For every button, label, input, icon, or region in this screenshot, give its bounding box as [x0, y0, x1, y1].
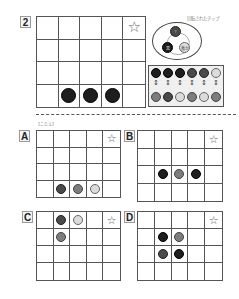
- grid-cell: [102, 17, 124, 40]
- rotation-chip-left: 黒: [162, 42, 173, 53]
- grid-cell: [37, 246, 54, 263]
- grid-cell: [123, 40, 145, 63]
- grid-cell: [188, 246, 205, 263]
- grid-cell: [103, 229, 120, 246]
- grid-cell: [87, 164, 104, 181]
- grid-cell: [70, 212, 87, 229]
- grid-cell: [54, 263, 71, 280]
- grid-cell: [205, 149, 222, 167]
- grid-cell: [102, 85, 124, 108]
- option-d-label[interactable]: D: [124, 211, 135, 223]
- chip-dark: [56, 215, 66, 225]
- option-b-grid[interactable]: ☆: [137, 130, 223, 202]
- grid-cell: [138, 246, 155, 263]
- grid-cell: [37, 212, 54, 229]
- grid-cell: [80, 17, 102, 40]
- chip-gray: [174, 169, 184, 179]
- grid-cell: [37, 148, 54, 165]
- dashed-separator: [36, 114, 236, 115]
- mapping-chip-top: [199, 68, 209, 78]
- grid-cell: [172, 212, 189, 229]
- grid-cell: [37, 85, 59, 108]
- option-a-label[interactable]: A: [19, 130, 30, 142]
- grid-cell: [70, 131, 87, 148]
- grid-cell: [188, 131, 205, 149]
- grid-cell: [205, 184, 222, 202]
- grid-cell: [138, 212, 155, 229]
- grid-cell: [37, 62, 59, 85]
- grid-cell: [87, 229, 104, 246]
- question-grid: ☆: [36, 16, 146, 108]
- grid-cell: [188, 212, 205, 229]
- option-a-grid[interactable]: ☆: [36, 130, 121, 198]
- grid-cell: [172, 166, 189, 184]
- grid-cell: [103, 148, 120, 165]
- grid-cell: [155, 184, 172, 202]
- swap-arrow-icon: ↕: [201, 80, 207, 87]
- grid-cell: ☆: [205, 131, 222, 149]
- rotation-chip-top: ?: [170, 26, 181, 37]
- grid-cell: [138, 263, 155, 280]
- grid-cell: [102, 40, 124, 63]
- chip-black: [158, 232, 168, 242]
- chip-gray: [73, 184, 83, 194]
- grid-cell: [80, 62, 102, 85]
- option-c-label[interactable]: C: [22, 211, 33, 223]
- grid-cell: [155, 229, 172, 246]
- swap-arrow-icon: ↕: [165, 80, 171, 87]
- chip-dark: [158, 249, 168, 259]
- grid-cell: [138, 131, 155, 149]
- grid-cell: ☆: [123, 17, 145, 40]
- mapping-chip-top: [211, 68, 221, 78]
- grid-cell: [59, 62, 81, 85]
- grid-cell: [172, 184, 189, 202]
- grid-cell: [87, 246, 104, 263]
- grid-cell: [37, 17, 59, 40]
- grid-cell: [87, 263, 104, 280]
- grid-cell: [102, 62, 124, 85]
- mapping-chip-bottom: [199, 92, 209, 102]
- chip-black: [191, 169, 201, 179]
- chip-black: [158, 169, 168, 179]
- grid-cell: [138, 229, 155, 246]
- grid-cell: [155, 246, 172, 263]
- answer-caption: 【こたえ】: [36, 121, 56, 127]
- grid-cell: [103, 246, 120, 263]
- grid-cell: [123, 62, 145, 85]
- grid-cell: [70, 148, 87, 165]
- grid-cell: [155, 149, 172, 167]
- grid-cell: [155, 131, 172, 149]
- grid-cell: [87, 148, 104, 165]
- grid-cell: [54, 246, 71, 263]
- grid-cell: [87, 181, 104, 198]
- grid-cell: [205, 229, 222, 246]
- grid-cell: [155, 212, 172, 229]
- chip-black: [105, 88, 120, 103]
- rotation-chip-right: 黄か: [179, 42, 190, 53]
- mapping-chip-top: [163, 68, 173, 78]
- grid-cell: [172, 263, 189, 280]
- grid-cell: [123, 85, 145, 108]
- grid-cell: [138, 166, 155, 184]
- option-c-grid[interactable]: ☆: [36, 211, 121, 281]
- mapping-chip-bottom: [163, 92, 173, 102]
- chip-black: [174, 249, 184, 259]
- chip-black: [61, 88, 76, 103]
- mapping-chip-top: [175, 68, 185, 78]
- swap-arrow-icon: ↕: [153, 80, 159, 87]
- grid-cell: [54, 181, 71, 198]
- grid-cell: [188, 166, 205, 184]
- star-icon: ☆: [127, 20, 140, 35]
- grid-cell: [54, 148, 71, 165]
- chip-dark: [56, 184, 66, 194]
- mapping-chip-bottom: [151, 92, 161, 102]
- star-icon: ☆: [209, 134, 219, 145]
- option-b-label[interactable]: B: [124, 130, 135, 142]
- grid-cell: [188, 149, 205, 167]
- option-d-grid[interactable]: ☆: [137, 211, 223, 281]
- grid-cell: [70, 164, 87, 181]
- grid-cell: [70, 229, 87, 246]
- grid-cell: [172, 229, 189, 246]
- grid-cell: [59, 40, 81, 63]
- mapping-chip-bottom: [187, 92, 197, 102]
